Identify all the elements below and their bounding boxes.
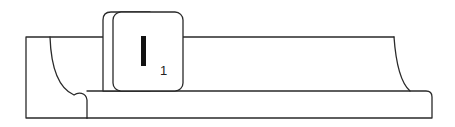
rack-back [26, 37, 103, 118]
tile-letter-glyph [141, 36, 146, 66]
tile-point-value: 1 [160, 64, 167, 77]
rack-front-ledge [87, 91, 432, 118]
rack-left-curve [50, 37, 87, 118]
rack-right-curve [394, 37, 410, 91]
letter-tile [113, 12, 183, 91]
tile-rack-drawing [0, 0, 455, 127]
